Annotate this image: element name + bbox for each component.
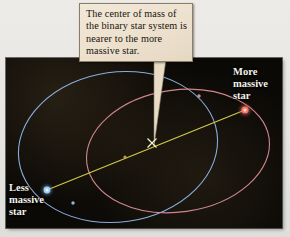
callout-box: The center of mass of the binary star sy… [79, 3, 193, 62]
callout-text: The center of mass of the binary star sy… [86, 8, 187, 58]
center-of-mass-marker [148, 139, 157, 148]
callout-pointer [154, 59, 166, 146]
figure-root: The center of mass of the binary star sy… [0, 0, 290, 237]
red-orbit-tick [197, 94, 200, 97]
blue-orbit-tick [71, 201, 74, 204]
orbit-intersection-node [123, 155, 126, 158]
more-massive-star [237, 102, 253, 118]
less-massive-star-label: Less massive star [9, 182, 44, 218]
separation-axis-line [47, 110, 245, 190]
more-massive-star-label: More massive star [233, 66, 268, 102]
